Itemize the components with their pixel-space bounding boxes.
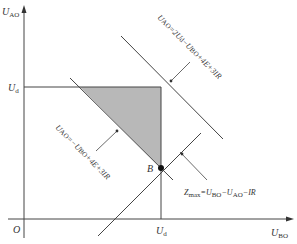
x-tick-ud-label: Ud — [156, 225, 167, 238]
y-axis-arrow-icon — [22, 5, 27, 13]
objective-arrow-icon — [181, 153, 184, 156]
objective-normal-line — [180, 152, 207, 180]
point-b-marker — [158, 165, 164, 171]
point-b-label: B — [147, 163, 153, 174]
x-axis-label: UBO — [271, 227, 288, 240]
upper-constraint-label: UAO=2Ud−UBO+4E+3IR — [156, 13, 224, 81]
upper-label-leader — [172, 62, 190, 80]
diagram-canvas: B UAO UBO O Ud Ud UAO=2Ud−UBO+4E+3IR UAO… — [0, 0, 297, 244]
lower-label-leader — [96, 131, 117, 151]
y-tick-ud-label: Ud — [8, 82, 19, 95]
y-axis-label: UAO — [2, 6, 19, 19]
objective-label: Zmax=UBO−UAO−IR — [184, 188, 256, 199]
upper-leader-arrow-icon — [170, 80, 173, 83]
lower-constraint-label: UAO=−UBO+4E+3IR — [54, 123, 112, 181]
lower-leader-arrow-icon — [116, 130, 119, 133]
x-axis-arrow-icon — [286, 217, 294, 222]
origin-label: O — [13, 224, 20, 235]
